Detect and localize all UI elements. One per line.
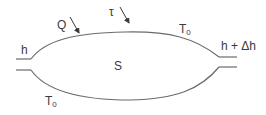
system-boundary-bottom [31, 67, 219, 100]
heat-label: Q [57, 19, 66, 31]
outlet-enthalpy-label: h + Δh [221, 40, 256, 52]
heat-arrow-icon [70, 17, 79, 33]
temperature-top-subscript: 0 [186, 28, 190, 37]
control-volume-diagram: h Q τ T0 h + Δh S T0 [0, 0, 266, 115]
work-label: τ [109, 6, 114, 18]
temperature-bottom-label: T0 [45, 95, 57, 109]
inlet-enthalpy-label: h [21, 44, 28, 56]
temperature-top-label: T0 [179, 23, 191, 37]
work-arrow-icon [120, 7, 129, 23]
system-label: S [114, 60, 122, 72]
temperature-bottom-subscript: 0 [52, 100, 56, 109]
diagram-svg [0, 0, 266, 115]
